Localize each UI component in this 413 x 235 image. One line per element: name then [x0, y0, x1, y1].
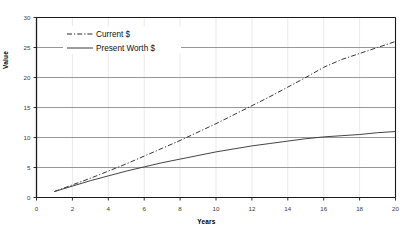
x-tick-label: 14	[284, 205, 291, 212]
y-tick-label: 5	[27, 164, 31, 171]
legend: Current $Present Worth $	[63, 26, 181, 54]
y-tick-label: 15	[24, 104, 31, 111]
series-line-current	[54, 42, 395, 192]
legend-label-1: Current $	[96, 30, 131, 39]
x-tick-label: 20	[392, 205, 399, 212]
chart-canvas: 05101520253002468101214161820 Current $P…	[0, 0, 413, 235]
x-tick-label: 0	[35, 205, 39, 212]
y-tick-label: 20	[24, 74, 31, 81]
series-lines	[54, 42, 395, 192]
chart-figure: 05101520253002468101214161820 Current $P…	[0, 0, 413, 235]
legend-label-2: Present Worth $	[96, 44, 155, 53]
x-tick-label: 2	[71, 205, 75, 212]
y-axis-title: Value	[2, 30, 9, 90]
y-tick-label: 30	[24, 14, 31, 21]
x-axis-title: Years	[0, 218, 413, 225]
x-tick-label: 16	[320, 205, 327, 212]
x-tick-label: 18	[356, 205, 363, 212]
x-tick-label: 6	[142, 205, 146, 212]
x-tick-label: 12	[248, 205, 255, 212]
series-line-present-worth	[54, 132, 395, 192]
y-tick-label: 0	[27, 194, 31, 201]
x-tick-label: 4	[107, 205, 111, 212]
x-tick-label: 8	[178, 205, 182, 212]
x-tick-label: 10	[213, 205, 220, 212]
y-tick-label: 25	[24, 44, 31, 51]
y-tick-label: 10	[24, 134, 31, 141]
